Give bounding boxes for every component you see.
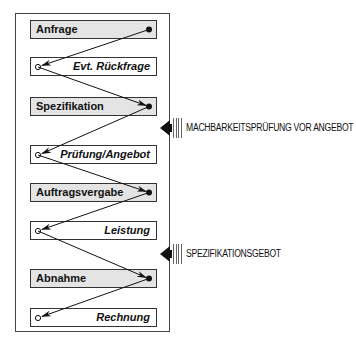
step-rechnung: Rechnung [30, 308, 157, 327]
step-label: Leistung [104, 224, 150, 236]
arrow-stub [168, 124, 172, 132]
step-label: Rechnung [96, 311, 150, 323]
side-note-machbarkeit: MACHBARKEITSPRÜFUNG VOR ANGEBOT [186, 122, 353, 133]
side-note-marker-2 [160, 244, 184, 264]
hatch-lines [173, 118, 183, 138]
step-label: Evt. Rückfrage [73, 60, 150, 72]
step-label: Auftragsvergabe [36, 186, 123, 198]
step-rueckfrage: Evt. Rückfrage [30, 57, 157, 76]
step-label: Anfrage [36, 23, 78, 35]
step-label: Prüfung/Angebot [60, 148, 150, 160]
arrow-stub [168, 250, 172, 258]
step-spezifikation: Spezifikation [30, 97, 157, 116]
step-anfrage: Anfrage [30, 20, 157, 39]
hatch-lines [173, 244, 183, 264]
step-leistung: Leistung [30, 221, 157, 240]
step-pruefung-angebot: Prüfung/Angebot [30, 145, 157, 164]
step-auftragsvergabe: Auftragsvergabe [30, 183, 157, 202]
step-abnahme: Abnahme [30, 269, 157, 288]
step-label: Abnahme [36, 272, 86, 284]
side-note-marker-1 [160, 118, 184, 138]
side-note-spezifikationsgebot: SPEZIFIKATIONSGEBOT [186, 248, 281, 259]
step-label: Spezifikation [36, 100, 104, 112]
